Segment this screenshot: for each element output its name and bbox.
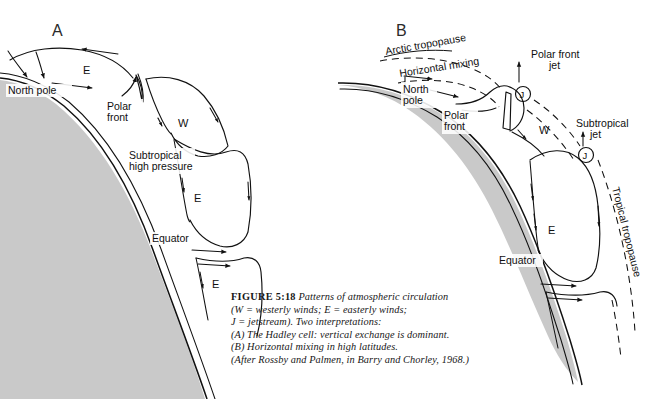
caption-line-6: (After Rossby and Palmen, in Barry and C…: [231, 354, 521, 367]
polar-front-jet-symbol-b: J: [520, 89, 525, 100]
hadley-surface-arrow-a: [192, 250, 226, 252]
panel-a-easterly-south-label: E: [212, 278, 219, 290]
hadley-flow-arrow-1-a: [248, 182, 249, 200]
panel-a: A E: [0, 22, 262, 399]
ferrel-cell-inner-a: [146, 79, 171, 134]
polar-front-wedge-a: [136, 75, 142, 101]
polar-front-rising-a: [122, 77, 136, 96]
panel-a-easterly-trade-label: E: [194, 192, 201, 204]
caption-line-1-rest: Patterns of atmospheric circulation: [296, 291, 449, 302]
caption-line-2: (W = westerly winds; E = easterly winds;: [231, 304, 521, 317]
caption-line-3: J = jetstream). Two interpretations:: [231, 316, 521, 329]
subtropical-jet-line-1-b: [534, 100, 580, 146]
panel-a-polar-front-label-2: front: [107, 111, 128, 123]
panel-a-easterly-polar-label: E: [83, 64, 90, 76]
figure-container: A E: [0, 0, 654, 399]
south-cell-surface-a: [198, 264, 230, 266]
caption-line-4: (A) The Hadley cell: vertical exchange i…: [231, 329, 521, 342]
caption-figure-label: FIGURE 5:18: [231, 291, 296, 302]
panel-a-north-pole-label: North pole: [8, 84, 57, 96]
panel-a-westerly-label: W: [178, 117, 189, 129]
panel-a-letter: A: [52, 22, 63, 39]
polar-descent-arrow-2-a: [36, 52, 44, 78]
panel-b-letter: B: [396, 22, 407, 39]
panel-a-subtropical-label-2: high pressure: [129, 160, 193, 172]
caption-line-5: (B) Horizontal mixing in high latitudes.: [231, 341, 521, 354]
panel-b-equator-label: Equator: [499, 254, 536, 266]
panel-b-westerly-label: W: [539, 124, 550, 136]
polar-descent-arrow-1-a: [8, 51, 27, 77]
figure-caption: FIGURE 5:18 Patterns of atmospheric circ…: [231, 291, 521, 367]
tropical-tropopause-line-2-b: [612, 300, 621, 358]
south-cell-inner-a: [196, 258, 208, 320]
subtropical-jet-symbol-b: J: [583, 150, 588, 161]
panel-b-subtropical-jet-label-2: jet: [589, 128, 601, 140]
panel-b-easterly-label: E: [548, 224, 555, 236]
caption-line-1: FIGURE 5:18 Patterns of atmospheric circ…: [231, 291, 521, 304]
panel-a-equator-label: Equator: [152, 232, 189, 244]
panel-b-north-pole-label-2: pole: [403, 94, 423, 106]
panel-b-subtropical-jet-label-1: Subtropical: [576, 117, 629, 129]
panel-b-polar-front-jet-label-2: jet: [548, 59, 560, 71]
polar-front-wedge-b: [503, 92, 511, 130]
polar-cell-boundary-a: [10, 48, 133, 78]
panel-b-polar-front-label-2: front: [444, 120, 465, 132]
